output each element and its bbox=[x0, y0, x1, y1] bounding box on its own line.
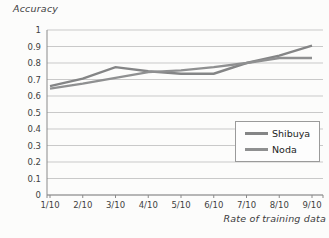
y-tick-label: 0.6 bbox=[27, 91, 41, 101]
y-tick-label: 0.8 bbox=[27, 58, 41, 68]
accuracy-line-chart: Accuracy 10.90.80.70.60.50.40.30.20.101/… bbox=[0, 0, 329, 238]
y-tick-label: 1 bbox=[36, 25, 41, 35]
x-tick-label: 8/10 bbox=[270, 200, 289, 210]
y-tick-label: 0.4 bbox=[27, 124, 41, 134]
series-line-shibuya bbox=[50, 46, 312, 86]
y-tick-label: 0.5 bbox=[27, 108, 41, 118]
x-tick-label: 1/10 bbox=[40, 200, 59, 210]
y-tick-label: 0.2 bbox=[27, 157, 41, 167]
legend-label-shibuya: Shibuya bbox=[272, 128, 310, 139]
y-tick-label: 0.1 bbox=[27, 174, 41, 184]
y-tick-label: 0 bbox=[36, 190, 41, 200]
x-tick-label: 3/10 bbox=[106, 200, 125, 210]
legend-label-noda: Noda bbox=[272, 144, 297, 155]
shibuya-line-swatch bbox=[245, 132, 268, 135]
legend: Shibuya Noda bbox=[235, 121, 320, 162]
y-tick-label: 0.3 bbox=[27, 141, 41, 151]
x-tick-label: 6/10 bbox=[204, 200, 223, 210]
x-tick-label: 2/10 bbox=[73, 200, 92, 210]
legend-item-noda: Noda bbox=[245, 144, 319, 155]
x-tick-label: 7/10 bbox=[237, 200, 256, 210]
chart-plot-area: 10.90.80.70.60.50.40.30.20.101/102/103/1… bbox=[0, 0, 329, 238]
noda-line-swatch bbox=[245, 148, 268, 151]
x-axis-title: Rate of training data bbox=[223, 213, 326, 224]
legend-item-shibuya: Shibuya bbox=[245, 128, 319, 139]
y-tick-label: 0.9 bbox=[27, 42, 41, 52]
x-tick-label: 9/10 bbox=[302, 200, 321, 210]
y-tick-label: 0.7 bbox=[27, 75, 41, 85]
x-tick-label: 4/10 bbox=[139, 200, 158, 210]
x-tick-label: 5/10 bbox=[171, 200, 190, 210]
